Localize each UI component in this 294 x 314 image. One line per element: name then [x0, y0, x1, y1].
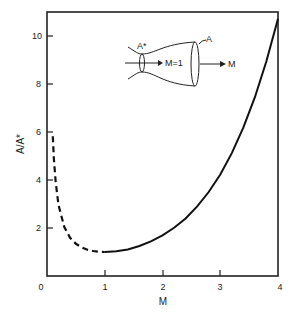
- x-tick-label: 4: [277, 282, 282, 292]
- arrow-head-icon: [220, 61, 226, 67]
- y-axis: [47, 36, 53, 228]
- y-tick-label: 4: [36, 175, 41, 185]
- exit-flow-label: M: [228, 59, 236, 69]
- subsonic-curve: [53, 136, 105, 252]
- throat-flow-label: M=1: [165, 58, 183, 68]
- throat-label: A*: [137, 41, 147, 51]
- y-tick-label: 10: [32, 31, 42, 41]
- y-tick-label: 2: [36, 223, 41, 233]
- y-tick-label: 8: [36, 79, 41, 89]
- exit-ellipse: [191, 42, 199, 86]
- x-tick-label: 0: [38, 282, 43, 292]
- x-tick-label: 3: [217, 282, 222, 292]
- exit-area-label: A: [206, 34, 212, 44]
- x-tick-label: 2: [160, 282, 165, 292]
- x-axis: [105, 270, 220, 276]
- y-axis-title: A/A*: [15, 134, 26, 154]
- y-tick-label: 6: [36, 127, 41, 137]
- exit-leader: [199, 40, 206, 44]
- x-tick-label: 1: [102, 282, 107, 292]
- arrow-head-icon: [158, 60, 163, 66]
- chart: 2 4 6 8 10 0 1 2 3 4 M A/A* A* M=1 A M: [0, 0, 294, 314]
- x-axis-title: M: [159, 296, 167, 307]
- nozzle-lower-wall: [128, 72, 195, 86]
